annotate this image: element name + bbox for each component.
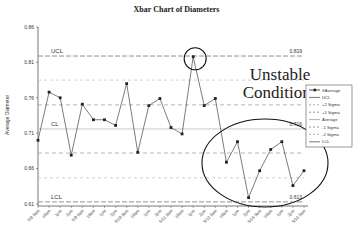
legend-item: +2 Sigma [322,102,340,107]
x-tick-label: 1pm [231,208,241,218]
x-tick-label: 1pm [187,208,197,218]
x-tick-label: 1pm [98,208,108,218]
xbar-chart: 0.860.810.760.710.660.61Average Diameter… [0,0,353,237]
x-tick-label: 10am [174,208,185,219]
y-tick-label: 0.76 [24,95,34,101]
x-tick-label: 5/9 9am [71,208,86,223]
y-tick-label: 0.66 [24,165,34,171]
data-point [92,118,95,121]
x-tick-label: 10am [130,208,141,219]
data-point [159,97,162,100]
data-point [192,55,195,58]
data-point [203,104,206,107]
data-point [269,148,272,151]
y-tick-label: 0.81 [24,59,34,65]
data-point [114,124,117,127]
legend-item: UCL [322,95,331,100]
data-point [181,133,184,136]
y-tick-label: 0.61 [24,201,34,207]
data-point [125,82,128,85]
lcl-label: LCL [51,194,63,200]
legend-item: -2 Sigma [322,132,339,137]
legend-item: XAverage [322,88,341,93]
x-tick-label: 1pm [54,208,64,218]
y-axis-label: Average Diameter [4,95,10,136]
annotation-unstable: Unstable [250,65,310,84]
ucl-label: UCL [51,48,64,54]
data-point [258,169,261,172]
cl-label: CL [51,121,59,127]
data-point [170,126,173,129]
x-tick-label: 1pm [275,208,285,218]
data-point [37,139,40,142]
data-point [225,161,228,164]
data-point [292,184,295,187]
data-point [48,91,51,94]
legend-item: -1 Sigma [322,125,339,130]
x-tick-label: 5/8 9am [26,208,41,223]
data-point [147,104,150,107]
data-point [247,196,250,199]
y-tick-label: 0.71 [24,130,34,136]
data-point [214,97,217,100]
data-point [59,96,62,99]
y-tick-label: 0.86 [24,24,34,30]
data-point [280,140,283,143]
x-tick-label: 10am [41,208,52,219]
data-point [103,118,106,121]
data-point [236,140,239,143]
legend-item: LCL [322,139,330,144]
x-tick-label: 10am [263,208,274,219]
data-point [81,103,84,106]
data-point [70,154,73,157]
ucl-value: 0.819 [289,48,302,54]
x-tick-label: 10am [218,208,229,219]
data-point [303,169,306,172]
legend-item: Average [322,117,338,122]
x-tick-label: 10am [85,208,96,219]
data-point [136,151,139,154]
legend-item: +1 Sigma [322,110,340,115]
x-tick-label: 1pm [142,208,152,218]
